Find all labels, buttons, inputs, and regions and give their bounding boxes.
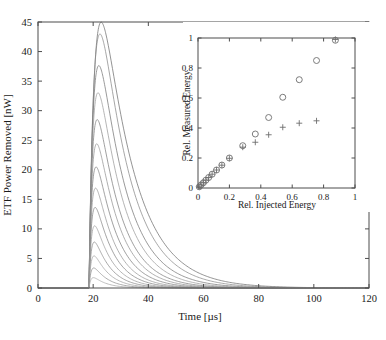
main-y-tick-label: 40: [22, 46, 33, 57]
inset-x-tick-label: 0.2: [224, 192, 235, 202]
inset-x-tick-label: 0.8: [318, 192, 330, 202]
inset-x-axis-label: Rel. Injected Energy: [238, 200, 316, 210]
main-x-tick-label: 80: [253, 293, 264, 304]
inset-background: [183, 22, 375, 212]
inset-y-tick-label: 1: [189, 33, 194, 43]
inset-x-tick-label: 0: [196, 192, 201, 202]
main-x-tick-label: 40: [143, 293, 154, 304]
main-curve: [38, 256, 369, 288]
inset-plot-group: 00.20.40.60.8100.20.40.60.81 Rel. Inject…: [182, 22, 375, 212]
main-x-tick-label: 120: [361, 293, 377, 304]
inset-x-tick-label: 1: [353, 192, 358, 202]
main-y-tick-label: 20: [22, 164, 33, 175]
main-y-tick-label: 10: [22, 223, 33, 234]
main-y-tick-label: 35: [22, 76, 33, 87]
main-y-tick-label: 15: [22, 194, 33, 205]
main-y-tick-label: 30: [22, 105, 33, 116]
main-x-axis-label: Time [µs]: [178, 310, 222, 322]
main-x-tick-label: 100: [306, 293, 322, 304]
inset-y-tick-label: 0: [189, 183, 194, 193]
main-x-tick-label: 0: [35, 293, 40, 304]
figure-container: 020406080100120051015202530354045 Time […: [0, 0, 386, 340]
chart-canvas: 020406080100120051015202530354045 Time […: [0, 0, 386, 340]
main-x-tick-label: 60: [198, 293, 209, 304]
main-x-tick-label: 20: [88, 293, 99, 304]
inset-y-axis-label: Rel. Measured Energy: [182, 70, 192, 155]
main-y-tick-label: 25: [22, 135, 33, 146]
main-curve: [38, 207, 369, 288]
main-y-tick-label: 0: [27, 283, 32, 294]
main-y-tick-label: 45: [22, 17, 33, 28]
main-y-tick-label: 5: [27, 253, 32, 264]
main-y-axis-label: ETF Power Removed [nW]: [1, 94, 13, 215]
main-curve: [38, 242, 369, 288]
